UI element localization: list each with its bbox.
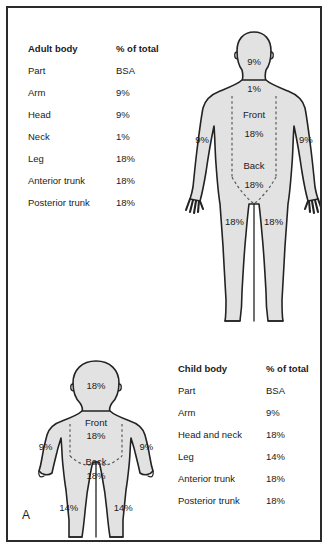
child-bsa-table: Child body % of total Part BSA Arm 9% He… xyxy=(178,364,322,518)
adult-row-value: 1% xyxy=(116,132,130,142)
adult-row-part: Head xyxy=(28,110,51,120)
adult-head-label: 9% xyxy=(247,57,261,67)
child-arm-left-label: 9% xyxy=(39,442,53,452)
table-row: Leg 18% xyxy=(28,154,188,176)
adult-arm-left-label: 9% xyxy=(195,135,209,145)
adult-table-part-label: Part xyxy=(28,66,45,76)
adult-row-value: 18% xyxy=(116,154,135,164)
table-subheader-row: Part BSA xyxy=(178,386,322,408)
table-row: Head 9% xyxy=(28,110,188,132)
table-subheader-row: Part BSA xyxy=(28,66,188,88)
adult-neck-label: 1% xyxy=(247,84,261,94)
adult-table-bsa-label: BSA xyxy=(116,66,135,76)
child-row-part: Head and neck xyxy=(178,430,242,440)
table-row: Posterior trunk 18% xyxy=(28,198,188,220)
child-row-value: 18% xyxy=(266,430,285,440)
child-arm-right-label: 9% xyxy=(139,442,153,452)
child-table-title: Child body xyxy=(178,364,227,374)
child-row-part: Anterior trunk xyxy=(178,474,235,484)
adult-row-part: Neck xyxy=(28,132,50,142)
adult-row-part: Posterior trunk xyxy=(28,198,90,208)
child-row-value: 14% xyxy=(266,452,285,462)
child-front-value: 18% xyxy=(86,431,105,441)
child-row-value: 9% xyxy=(266,408,280,418)
table-row: Arm 9% xyxy=(178,408,322,430)
adult-leg-right-label: 18% xyxy=(264,217,283,227)
adult-body-diagram: 9% 1% Front 18% Back 18% 9% 9% 18% 18% xyxy=(184,22,322,332)
adult-leg-left-label: 18% xyxy=(225,217,244,227)
child-head-label: 18% xyxy=(86,381,105,391)
adult-row-part: Leg xyxy=(28,154,44,164)
adult-back-label: Back xyxy=(243,161,264,171)
figure-panel: Adult body % of total Part BSA Arm 9% He… xyxy=(6,6,322,542)
adult-body-svg xyxy=(184,22,322,332)
child-table-part-label: Part xyxy=(178,386,195,396)
adult-row-value: 9% xyxy=(116,88,130,98)
table-header-row: Adult body % of total xyxy=(28,44,188,66)
adult-row-part: Anterior trunk xyxy=(28,176,85,186)
child-back-label: Back xyxy=(85,457,106,467)
table-row: Neck 1% xyxy=(28,132,188,154)
table-row: Anterior trunk 18% xyxy=(28,176,188,198)
child-row-value: 18% xyxy=(266,496,285,506)
panel-letter: A xyxy=(22,508,30,522)
table-row: Leg 14% xyxy=(178,452,322,474)
adult-front-label: Front xyxy=(243,110,265,120)
adult-row-value: 18% xyxy=(116,198,135,208)
adult-row-part: Arm xyxy=(28,88,45,98)
adult-hand-left-icon xyxy=(186,199,203,213)
adult-arm-right-label: 9% xyxy=(299,135,313,145)
child-row-part: Posterior trunk xyxy=(178,496,240,506)
child-leg-left-label: 14% xyxy=(59,503,78,513)
adult-table-title: Adult body xyxy=(28,44,78,54)
child-front-label: Front xyxy=(85,418,107,428)
table-row: Head and neck 18% xyxy=(178,430,322,452)
adult-front-value: 18% xyxy=(244,129,263,139)
child-table-value-header: % of total xyxy=(266,364,309,374)
table-header-row: Child body % of total xyxy=(178,364,322,386)
adult-table-value-header: % of total xyxy=(116,44,159,54)
child-body-diagram: 18% Front 18% Back 18% 9% 9% 14% 14% xyxy=(28,356,164,542)
adult-row-value: 9% xyxy=(116,110,130,120)
child-row-part: Leg xyxy=(178,452,194,462)
table-row: Posterior trunk 18% xyxy=(178,496,322,518)
adult-hand-right-icon xyxy=(305,199,322,213)
adult-back-value: 18% xyxy=(244,180,263,190)
child-leg-right-label: 14% xyxy=(114,503,133,513)
table-row: Anterior trunk 18% xyxy=(178,474,322,496)
child-row-value: 18% xyxy=(266,474,285,484)
adult-bsa-table: Adult body % of total Part BSA Arm 9% He… xyxy=(28,44,188,220)
adult-row-value: 18% xyxy=(116,176,135,186)
child-row-part: Arm xyxy=(178,408,195,418)
child-back-value: 18% xyxy=(86,471,105,481)
child-table-bsa-label: BSA xyxy=(266,386,285,396)
table-row: Arm 9% xyxy=(28,88,188,110)
